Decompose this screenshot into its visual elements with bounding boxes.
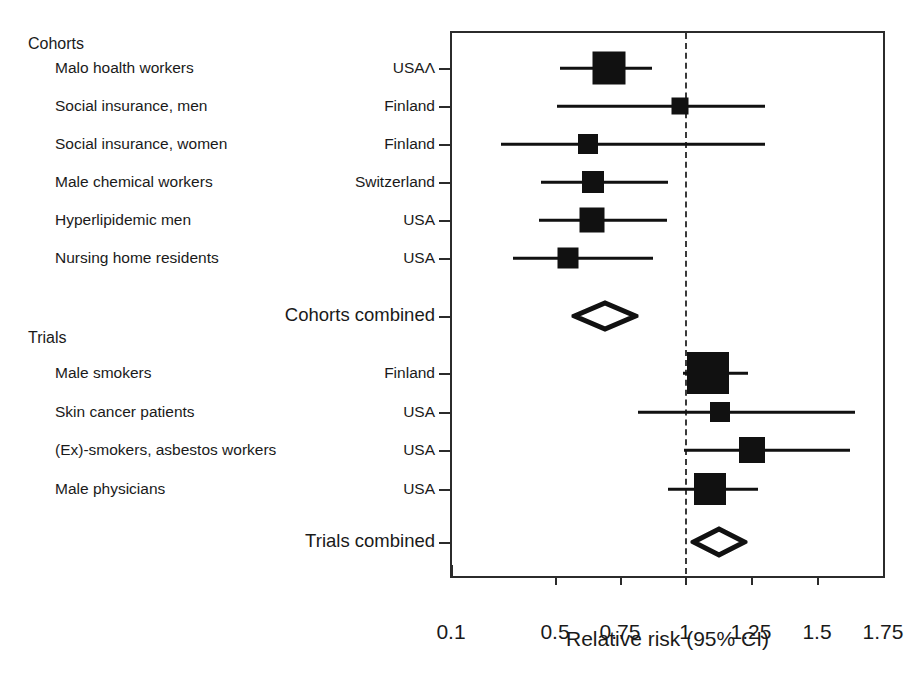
row-tick (439, 68, 450, 70)
confidence-interval-line (638, 411, 855, 414)
row-tick (439, 144, 450, 146)
row-tick (439, 182, 450, 184)
effect-estimate-box (739, 437, 765, 463)
country-label: Switzerland (355, 174, 435, 190)
country-label: USA (403, 404, 435, 420)
row-tick (439, 373, 450, 375)
country-label: USA (403, 250, 435, 266)
summary-diamond (572, 300, 639, 332)
x-tick (555, 576, 557, 585)
study-label: Social insurance, women (55, 136, 227, 152)
confidence-interval-line (513, 257, 653, 260)
country-label: USA (403, 212, 435, 228)
row-tick (439, 220, 450, 222)
confidence-interval-line (684, 449, 850, 452)
effect-estimate-box (578, 134, 598, 154)
x-axis-title: Relative risk (95% CI) (450, 628, 885, 649)
row-tick (439, 542, 450, 544)
row-tick (439, 489, 450, 491)
forest-plot-figure: Cohorts Trials Malo hoalth workersUSAΛSo… (0, 0, 921, 677)
country-label: Finland (384, 98, 435, 114)
study-label: Male chemical workers (55, 174, 213, 190)
confidence-interval-line (541, 181, 668, 184)
axis-frame-right (883, 31, 885, 578)
row-tick (439, 450, 450, 452)
summary-label: Trials combined (305, 532, 435, 551)
x-tick (451, 565, 453, 577)
axis-frame-top (450, 31, 885, 33)
study-label: Male smokers (55, 365, 151, 381)
country-label: USAΛ (393, 60, 435, 76)
study-label: Malo hoalth workers (55, 60, 194, 76)
effect-estimate-box (710, 402, 730, 422)
axis-frame-left (450, 31, 452, 578)
effect-estimate-box (580, 208, 605, 233)
country-label: Finland (384, 136, 435, 152)
study-label: (Ex)-smokers, asbestos workers (55, 442, 276, 458)
confidence-interval-line (501, 143, 765, 146)
row-tick (439, 316, 450, 318)
effect-estimate-box (687, 352, 729, 394)
section-heading-trials: Trials (28, 330, 67, 346)
x-tick (685, 576, 687, 585)
row-tick (439, 412, 450, 414)
summary-diamond (691, 526, 748, 558)
row-tick (439, 258, 450, 260)
effect-estimate-box (672, 98, 689, 115)
axis-frame-bottom (450, 576, 885, 578)
country-label: USA (403, 442, 435, 458)
x-tick (620, 576, 622, 585)
row-tick (439, 106, 450, 108)
x-tick (883, 565, 885, 577)
study-label: Hyperlipidemic men (55, 212, 191, 228)
summary-label: Cohorts combined (285, 306, 435, 325)
effect-estimate-box (694, 473, 726, 505)
effect-estimate-box (593, 52, 626, 85)
x-tick (817, 576, 819, 585)
country-label: USA (403, 481, 435, 497)
study-label: Male physicians (55, 481, 165, 497)
effect-estimate-box (558, 248, 579, 269)
study-label: Skin cancer patients (55, 404, 195, 420)
section-heading-cohorts: Cohorts (28, 36, 84, 52)
study-label: Social insurance, men (55, 98, 208, 114)
effect-estimate-box (582, 171, 604, 193)
confidence-interval-line (557, 105, 765, 108)
x-tick (751, 576, 753, 585)
plot-area: 0.10.50.7511.251.51.75 (450, 31, 885, 578)
country-label: Finland (384, 365, 435, 381)
study-label: Nursing home residents (55, 250, 219, 266)
